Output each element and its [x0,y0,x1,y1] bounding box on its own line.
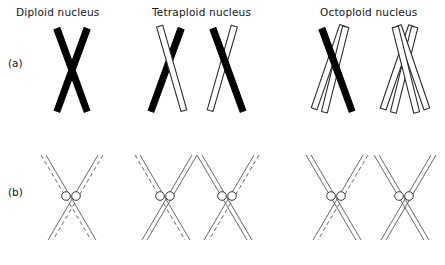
diploid-chromosome-1 [54,28,90,113]
centromere-circle [156,192,165,201]
strand-solid [379,155,429,240]
centromere-circle [327,192,336,201]
centromere-circle [218,192,227,201]
arm-backslash-hollow [207,25,237,111]
centromere-circle [405,192,414,201]
tetraploid-chromosome-1 [148,25,187,112]
strand-solid [46,155,96,240]
row-b-group [41,155,436,240]
octoploid-strands-2 [374,155,436,240]
tetraploid-chromosome-2 [207,25,246,112]
arm-slash-hollow [157,25,187,111]
octoploid-chromosome-1 [311,24,355,113]
ploidy-chromosome-figure: Diploid nucleus Tetraploid nucleus Octop… [0,0,445,265]
diploid-strands-1 [41,155,103,240]
strand-solid [311,155,361,240]
chromosome-canvas [0,0,445,265]
octoploid-strands-1 [306,155,368,240]
centromere-circle [166,192,175,201]
tetraploid-strands-2 [197,155,259,240]
row-a-group [54,24,430,113]
centromere-circle [337,192,346,201]
centromere-circle [228,192,237,201]
centromere-circle [62,192,71,201]
centromere-circle [72,192,81,201]
strand-solid [140,155,190,240]
tetraploid-strands-1 [135,155,197,240]
centromere-circle [395,192,404,201]
octoploid-chromosome-2 [380,25,430,113]
strand-solid [202,155,252,240]
